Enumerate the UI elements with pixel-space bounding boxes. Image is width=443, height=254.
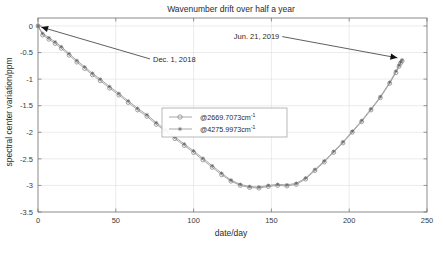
legend[interactable]: @2669.7073cm-1@4275.9973cm-1 [162,108,287,137]
x-tick-label: 250 [421,216,434,225]
y-tick-label: -0.5 [20,48,33,57]
y-tick-label: -3 [26,181,33,190]
x-axis-label: date/day [215,228,248,238]
legend-entry-label: @4275.9973cm-1 [200,124,256,134]
x-tick-label: 100 [187,216,200,225]
annotation-label: Jun. 21, 2019 [234,32,279,41]
annotation-label: Dec. 1, 2018 [153,55,196,64]
legend-entry-superscript: -1 [251,124,256,130]
y-tick-label: 0 [29,22,33,31]
legend-entry-label: @2669.7073cm-1 [200,112,256,122]
y-tick-label: -2.5 [20,155,33,164]
y-tick-label: -1.5 [20,101,33,110]
figure-container: 050100150200250 0-0.5-1-1.5-2-2.5-3-3.5 … [0,0,443,254]
wavenumber-drift-chart: 050100150200250 0-0.5-1-1.5-2-2.5-3-3.5 … [0,0,443,254]
chart-title: Wavenumber drift over half a year [167,4,295,14]
x-tick-label: 200 [343,216,356,225]
y-tick-label: -2 [26,128,33,137]
x-tick-label: 50 [112,216,120,225]
y-axis-label: spectral center variation/ppm [4,57,14,166]
legend-entry-superscript: -1 [251,112,256,118]
x-tick-label: 0 [36,216,40,225]
x-tick-label: 150 [265,216,278,225]
y-tick-label: -1 [26,75,33,84]
y-tick-label: -3.5 [20,208,33,217]
